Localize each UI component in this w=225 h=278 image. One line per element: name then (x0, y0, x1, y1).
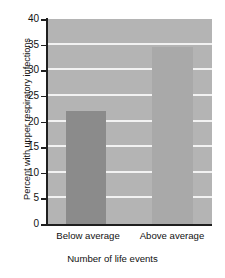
y-tick-10 (41, 173, 46, 175)
y-tick-5 (41, 198, 46, 200)
y-tick-20 (41, 122, 46, 124)
y-tick-label-5: 5 (0, 193, 39, 203)
y-tick-label-0: 0 (0, 219, 39, 229)
y-axis-line (46, 18, 48, 225)
x-axis-line (46, 224, 212, 226)
y-tick-label-25: 25 (0, 91, 39, 101)
y-tick-25 (41, 96, 46, 98)
y-tick-label-35: 35 (0, 40, 39, 50)
y-tick-0 (41, 224, 46, 226)
plot-area (48, 19, 212, 224)
gridline-35 (48, 43, 212, 45)
x-axis-title: Number of life events (0, 253, 225, 264)
y-tick-15 (41, 147, 46, 149)
y-tick-label-40: 40 (0, 14, 39, 24)
y-tick-label-15: 15 (0, 142, 39, 152)
y-tick-label-20: 20 (0, 117, 39, 127)
y-tick-35 (41, 45, 46, 47)
y-tick-label-30: 30 (0, 65, 39, 75)
y-tick-40 (41, 19, 46, 21)
y-tick-label-10: 10 (0, 168, 39, 178)
x-category-label-above-average: Above average (124, 230, 220, 241)
bar-chart-figure: Percent with upper respiratory infection… (0, 0, 225, 278)
y-tick-30 (41, 70, 46, 72)
bar-above-average (152, 47, 193, 224)
bar-below-average (66, 111, 106, 224)
x-category-label-below-average: Below average (40, 230, 136, 241)
